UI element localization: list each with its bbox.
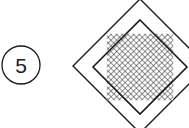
callout-number: 5 xyxy=(15,54,27,77)
callout-circle: 5 xyxy=(2,46,40,84)
diagram-canvas: 5 xyxy=(0,0,189,128)
inner-diamond-hatched xyxy=(69,0,189,128)
